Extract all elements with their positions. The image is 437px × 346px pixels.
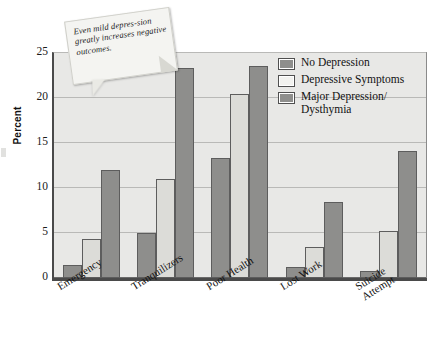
chart-legend: No DepressionDepressive SymptomsMajor De… (278, 56, 428, 118)
y-axis-tick-labels: 0510152025 (18, 0, 48, 346)
legend-swatch-icon (278, 58, 295, 70)
legend-swatch-icon (278, 75, 295, 87)
y-axis-tick-label: 10 (22, 180, 48, 192)
edge-artifact (1, 148, 6, 157)
y-axis-tick-label: 15 (22, 135, 48, 147)
legend-item: Major Depression/Dysthymia (278, 90, 428, 115)
legend-swatch-icon (278, 92, 295, 104)
y-axis-tick-label: 25 (22, 45, 48, 57)
legend-item: No Depression (278, 56, 428, 70)
y-axis-tick-label: 5 (22, 225, 48, 237)
legend-label: No Depression (301, 56, 370, 69)
callout-note-text: Even mild depres-sion greatly increases … (73, 13, 170, 57)
bar (211, 158, 230, 278)
y-axis-tick-label: 20 (22, 90, 48, 102)
bar (101, 170, 120, 278)
bar-group (128, 53, 202, 278)
chart-figure: Percent 0510152025 EmergencyTranquilizer… (0, 0, 437, 346)
bar (324, 202, 343, 279)
legend-item: Depressive Symptoms (278, 73, 428, 87)
bar-group (54, 53, 128, 278)
bar (175, 68, 194, 278)
bar-group (203, 53, 277, 278)
bar (230, 94, 249, 278)
page-fold-icon (159, 53, 178, 72)
bar (249, 66, 268, 278)
bar (398, 151, 417, 278)
y-axis-tick-label: 0 (22, 270, 48, 282)
callout-pointer-icon (92, 79, 106, 95)
legend-label: Major Depression/Dysthymia (301, 90, 387, 115)
legend-label: Depressive Symptoms (301, 73, 404, 86)
